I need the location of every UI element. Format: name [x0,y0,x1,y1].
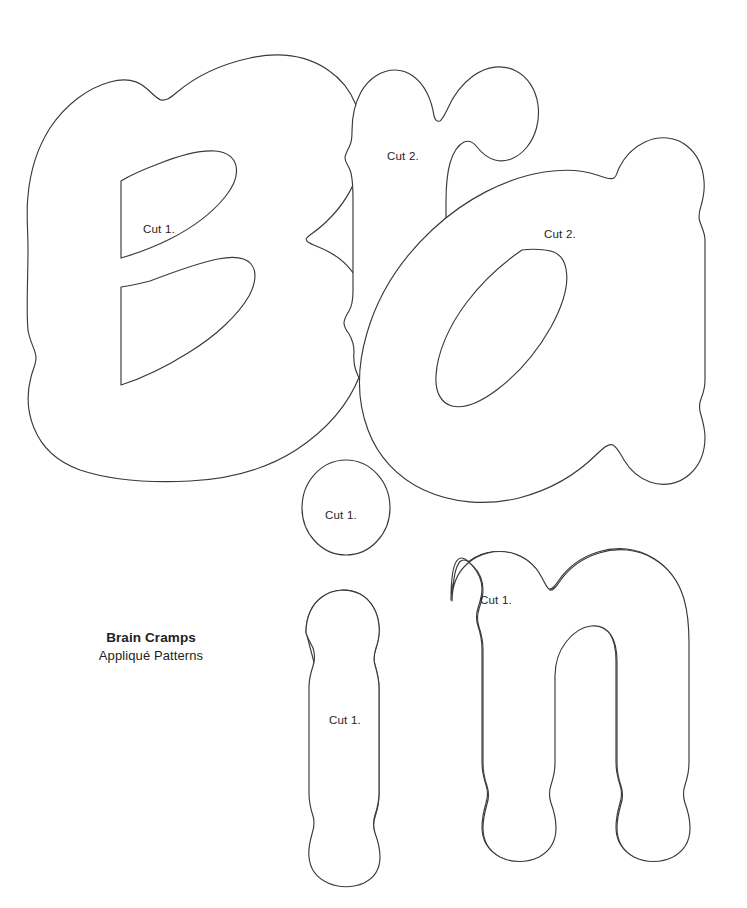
cut-label-letter-a: Cut 2. [544,228,576,240]
pattern-title: Brain Cramps [91,629,211,647]
title-block: Brain Cramps Appliqué Patterns [91,629,211,665]
letter-i-dot-outline [302,460,390,555]
applique-pattern-drawing [0,0,747,908]
pattern-subtitle: Appliqué Patterns [91,647,211,665]
letter-i-stem-outline-main [306,590,380,887]
cut-label-letter-r: Cut 2. [387,150,419,162]
cut-label-letter-b: Cut 1. [143,223,175,235]
letter-b-shape [27,55,369,481]
cut-label-letter-i-dot: Cut 1. [325,509,357,521]
letter-i-dot-shape [302,460,390,555]
cut-label-letter-n: Cut 1. [480,594,512,606]
letter-i-stem-shape [306,590,380,887]
pattern-sheet: Cut 1. Cut 2. Cut 2. Cut 1. Cut 1. Cut 1… [0,0,747,908]
cut-label-letter-i-stem: Cut 1. [329,714,361,726]
